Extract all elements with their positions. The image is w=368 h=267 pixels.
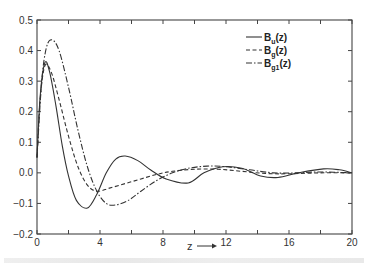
y-tick-label: 0.5 <box>19 15 33 26</box>
y-tick-label: 0.3 <box>19 76 33 87</box>
legend: Bu(z)Bg(z)Bg1(z) <box>246 32 291 72</box>
y-tick-label: −0.1 <box>13 198 33 209</box>
series-lines <box>37 40 352 208</box>
y-axis: 0.50.40.30.20.10.0−0.1−0.2 <box>13 15 352 240</box>
y-tick-label: 0.4 <box>19 45 33 56</box>
x-axis-label-text: z <box>187 240 193 252</box>
legend-label: Bg1(z) <box>264 58 291 72</box>
legend-label: Bg(z) <box>264 45 287 59</box>
x-axis-label: z <box>187 240 217 252</box>
x-tick-label: 20 <box>346 237 358 248</box>
x-tick-label: 4 <box>97 237 103 248</box>
x-tick-label: 16 <box>283 237 295 248</box>
legend-label: Bu(z) <box>264 32 287 45</box>
x-axis: 048121620 <box>34 20 358 248</box>
x-tick-label: 8 <box>160 237 166 248</box>
arrow-right-icon <box>197 244 217 249</box>
cropped-caption <box>4 258 364 263</box>
series-line <box>37 61 352 208</box>
x-tick-label: 0 <box>34 237 40 248</box>
x-tick-label: 12 <box>220 237 232 248</box>
y-tick-label: 0.2 <box>19 106 33 117</box>
y-tick-label: 0.0 <box>19 167 33 178</box>
plot-frame <box>37 20 352 234</box>
line-chart: 048121620 0.50.40.30.20.10.0−0.1−0.2 Bu(… <box>0 0 368 267</box>
y-tick-label: −0.2 <box>13 229 33 240</box>
y-tick-label: 0.1 <box>19 137 33 148</box>
